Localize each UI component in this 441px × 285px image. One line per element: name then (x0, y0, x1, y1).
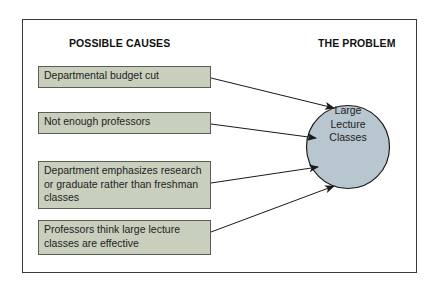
problem-label-line: Lecture (316, 118, 380, 132)
arrow-research-emphasis (211, 167, 318, 183)
problem-label-line: Large (316, 104, 380, 118)
problem-label-line: Classes (316, 131, 380, 145)
arrow-professors-think-effective (211, 186, 334, 232)
arrow-not-enough-professors (211, 124, 316, 138)
problem-label: Large Lecture Classes (316, 104, 380, 145)
